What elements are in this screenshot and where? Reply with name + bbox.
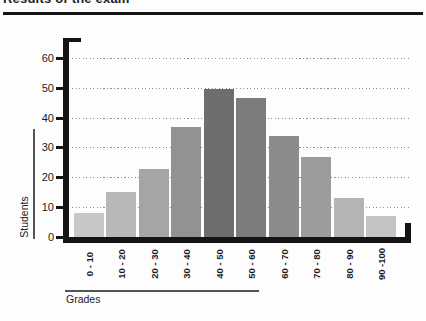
y-tick-label-0: 0 xyxy=(32,231,54,243)
x-tick-label-30-40: 30 - 40 xyxy=(181,249,192,279)
bar-80-90 xyxy=(334,198,364,237)
bar-40-50 xyxy=(204,89,234,237)
bar-0-10 xyxy=(74,213,104,237)
x-axis-title: Grades xyxy=(66,293,100,305)
x-tick-label-40-50: 40 - 50 xyxy=(213,249,224,279)
y-tick-label-20: 20 xyxy=(32,171,54,183)
x-axis-line xyxy=(63,237,411,243)
y-tick-0 xyxy=(56,236,63,239)
x-tick-label-60-70: 60 - 70 xyxy=(278,249,289,279)
x-axis-title-overline xyxy=(65,290,259,292)
x-axis-right-hook xyxy=(405,223,411,243)
y-axis-top-hook xyxy=(63,38,81,42)
bar-70-80 xyxy=(301,157,331,237)
x-tick-label-80-90: 80 - 90 xyxy=(343,249,354,279)
bar-60-70 xyxy=(269,136,299,237)
gridline-50 xyxy=(72,88,410,89)
y-tick-40 xyxy=(56,117,63,120)
x-tick-label-50-60: 50 - 60 xyxy=(246,249,257,279)
y-tick-label-50: 50 xyxy=(32,82,54,94)
bar-20-30 xyxy=(139,169,169,237)
gridline-60 xyxy=(72,58,410,59)
y-tick-label-40: 40 xyxy=(32,112,54,124)
bar-10-20 xyxy=(106,192,136,237)
y-tick-60 xyxy=(56,57,63,60)
x-tick-label-20-30: 20 - 30 xyxy=(148,249,159,279)
x-tick-label-70-80: 70 - 80 xyxy=(311,249,322,279)
y-tick-label-60: 60 xyxy=(32,52,54,64)
y-tick-50 xyxy=(56,87,63,90)
x-tick-label-90-100: 90 -100 xyxy=(376,248,387,280)
y-tick-label-30: 30 xyxy=(32,141,54,153)
y-tick-label-10: 10 xyxy=(32,201,54,213)
x-tick-label-10-20: 10 - 20 xyxy=(116,249,127,279)
y-axis-title-underline xyxy=(33,129,35,239)
bar-50-60 xyxy=(236,98,266,237)
scanned-chart-page: Results of the exam 6050403020100 0 - 10… xyxy=(0,0,426,321)
y-axis-title: Students xyxy=(18,196,30,237)
y-tick-30 xyxy=(56,146,63,149)
bar-30-40 xyxy=(171,127,201,237)
y-axis-line xyxy=(63,38,69,243)
y-tick-20 xyxy=(56,176,63,179)
y-tick-10 xyxy=(56,206,63,209)
x-tick-label-0-10: 0 - 10 xyxy=(84,252,95,276)
histogram-plot-area: 6050403020100 0 - 1010 - 2020 - 3030 - 4… xyxy=(0,0,426,321)
bar-90-100 xyxy=(366,216,396,237)
